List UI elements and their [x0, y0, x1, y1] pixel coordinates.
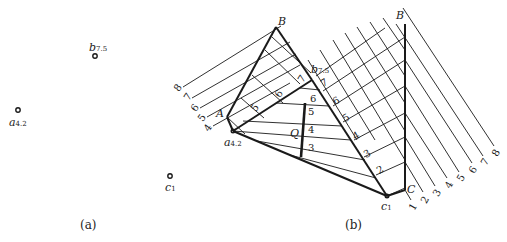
label-b-b: b7.5 [311, 64, 329, 75]
label-A: A [216, 108, 224, 119]
contour-4: 4 [308, 125, 314, 135]
label-B-right: B [396, 10, 404, 21]
point-a [16, 108, 20, 112]
label-c: c1 [165, 182, 176, 193]
label-C: C [407, 184, 415, 195]
contour-3: 3 [308, 143, 314, 153]
label-a-b: a4.2 [224, 137, 242, 148]
label-a: a4.2 [9, 117, 27, 128]
left-scale-lines [183, 26, 300, 126]
caption-a: (a) [80, 219, 97, 231]
label-Q: Q [290, 128, 299, 139]
point-c [168, 174, 172, 178]
diagram-canvas: b7.5 a4.2 c1 (a) B B A C Q a4.2 b7.5 c1 … [0, 0, 507, 242]
right-scale-lines [396, 8, 494, 200]
contour-6: 6 [310, 94, 316, 104]
label-B-left: B [278, 16, 286, 27]
point-b [93, 54, 97, 58]
contour-5: 5 [308, 107, 314, 117]
label-c-b: c1 [381, 201, 392, 212]
label-b: b7.5 [89, 42, 107, 53]
caption-b: (b) [345, 219, 362, 231]
geometry-drawing [0, 0, 507, 242]
